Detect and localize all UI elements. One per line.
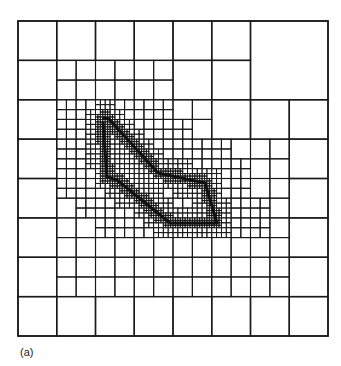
mesh-cell bbox=[173, 198, 183, 208]
mesh-cell bbox=[231, 139, 250, 159]
mesh-cell bbox=[217, 169, 222, 174]
mesh-cell bbox=[154, 129, 164, 139]
mesh-cell bbox=[192, 277, 211, 297]
mesh-cell bbox=[96, 159, 101, 164]
mesh-cell bbox=[105, 100, 110, 105]
mesh-cell bbox=[76, 179, 86, 189]
mesh-cell bbox=[125, 154, 130, 159]
mesh-cell bbox=[105, 198, 115, 208]
mesh-cell bbox=[139, 134, 144, 139]
mesh-cell bbox=[76, 159, 86, 169]
mesh-cell bbox=[231, 169, 241, 179]
mesh-cell bbox=[134, 21, 173, 60]
mesh-cell bbox=[192, 198, 197, 203]
mesh-cell bbox=[134, 119, 144, 129]
mesh-cell bbox=[129, 119, 134, 124]
mesh-cell bbox=[57, 60, 76, 80]
mesh-cell bbox=[144, 139, 149, 144]
mesh-cell bbox=[139, 208, 144, 213]
mesh-cell bbox=[86, 188, 96, 198]
mesh-cell bbox=[91, 124, 96, 129]
mesh-cell bbox=[207, 233, 212, 238]
mesh-cell bbox=[149, 149, 154, 154]
mesh-cell bbox=[183, 139, 193, 149]
mesh-cell bbox=[125, 149, 130, 154]
mesh-cell bbox=[96, 164, 101, 169]
mesh-cell bbox=[173, 257, 192, 277]
mesh-cell bbox=[115, 149, 120, 154]
mesh-cell bbox=[96, 188, 106, 198]
mesh-cell bbox=[76, 218, 95, 238]
mesh-cell bbox=[260, 208, 270, 218]
mesh-cell bbox=[178, 188, 183, 193]
mesh-cell bbox=[115, 110, 120, 115]
mesh-cell bbox=[158, 223, 163, 228]
mesh-cell bbox=[270, 218, 289, 238]
mesh-cell bbox=[144, 218, 149, 223]
mesh-cell bbox=[188, 159, 193, 164]
mesh-cell bbox=[270, 238, 289, 258]
mesh-cell bbox=[231, 218, 241, 228]
mesh-cell bbox=[115, 188, 120, 193]
mesh-cell bbox=[86, 100, 96, 110]
mesh-cell bbox=[96, 169, 101, 174]
mesh-cell bbox=[173, 149, 183, 159]
mesh-cell bbox=[168, 159, 173, 164]
mesh-cell bbox=[57, 169, 67, 179]
mesh-cell bbox=[76, 188, 86, 198]
mesh-cell bbox=[173, 238, 192, 258]
mesh-cell bbox=[221, 223, 226, 228]
mesh-cell bbox=[115, 218, 125, 228]
mesh-cell bbox=[144, 228, 154, 238]
mesh-cell bbox=[197, 169, 202, 174]
mesh-cell bbox=[129, 124, 134, 129]
mesh-cell bbox=[139, 183, 144, 188]
mesh-cell bbox=[134, 169, 139, 174]
mesh-cell bbox=[197, 228, 202, 233]
mesh-cell bbox=[76, 257, 95, 277]
mesh-cell bbox=[18, 297, 57, 336]
mesh-cell bbox=[226, 233, 231, 238]
mesh-cell bbox=[134, 179, 139, 184]
mesh-cell bbox=[289, 297, 328, 336]
mesh-cell bbox=[91, 110, 96, 115]
mesh-cell bbox=[129, 198, 134, 203]
mesh-cell bbox=[192, 228, 197, 233]
mesh-cell bbox=[226, 203, 231, 208]
mesh-cell bbox=[91, 144, 96, 149]
mesh-cell bbox=[134, 228, 144, 238]
mesh-cell bbox=[173, 233, 178, 238]
mesh-cell bbox=[289, 257, 328, 296]
mesh-cell bbox=[18, 179, 57, 218]
mesh-cell bbox=[163, 203, 168, 208]
mesh-cell bbox=[212, 257, 231, 277]
mesh-cell bbox=[144, 183, 149, 188]
mesh-cell bbox=[91, 139, 96, 144]
mesh-cell bbox=[57, 238, 76, 258]
mesh-cell bbox=[115, 257, 134, 277]
mesh-cell bbox=[154, 110, 164, 120]
mesh-cell bbox=[76, 100, 86, 110]
mesh-cell bbox=[251, 297, 290, 336]
mesh-cell bbox=[115, 80, 134, 100]
mesh-cell bbox=[197, 208, 202, 213]
mesh-cell bbox=[173, 297, 212, 336]
mesh-cell bbox=[120, 203, 125, 208]
mesh-cell bbox=[192, 159, 202, 169]
mesh-cell bbox=[18, 60, 57, 99]
mesh-cell bbox=[115, 139, 120, 144]
mesh-cell bbox=[173, 129, 183, 139]
mesh-cell bbox=[86, 110, 91, 115]
mesh-cell bbox=[134, 60, 153, 80]
mesh-cell bbox=[212, 139, 222, 149]
mesh-cell bbox=[217, 183, 222, 188]
mesh-cell bbox=[76, 149, 86, 159]
mesh-cell bbox=[139, 213, 144, 218]
mesh-cell bbox=[163, 139, 173, 149]
mesh-cell bbox=[289, 100, 328, 139]
mesh-cell bbox=[86, 179, 96, 189]
mesh-cell bbox=[134, 257, 153, 277]
mesh-cell bbox=[144, 129, 154, 139]
mesh-cell bbox=[110, 144, 115, 149]
mesh-cell bbox=[144, 213, 149, 218]
